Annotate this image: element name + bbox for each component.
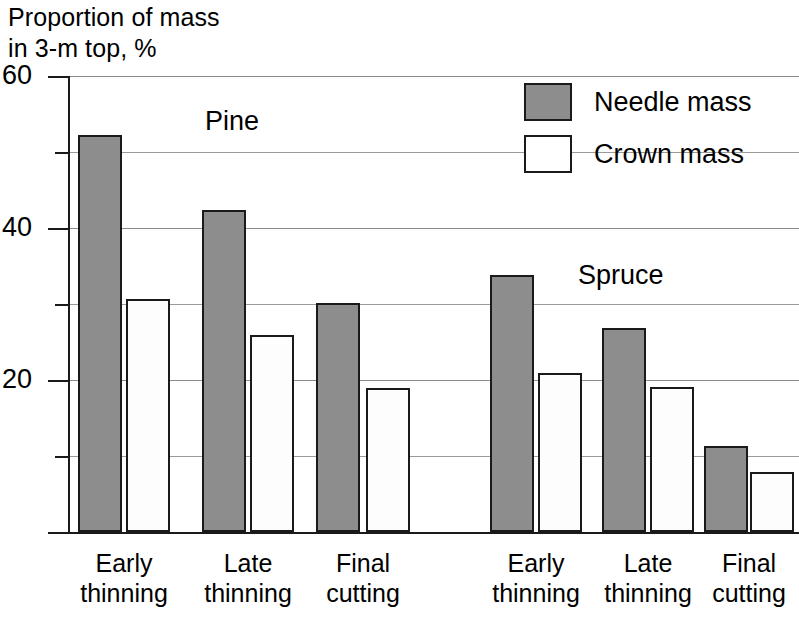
bar-crown-3[interactable] <box>538 373 582 532</box>
gridline-60 <box>68 76 799 77</box>
bar-chart-figure: Proportion of massin 3-m top, % 604020 P… <box>0 0 799 621</box>
x-axis-label-line1: Late <box>624 549 673 577</box>
legend-label-1: Crown mass <box>594 141 744 168</box>
x-axis-label-line2: cutting <box>326 579 400 607</box>
x-axis-label-line1: Final <box>722 549 776 577</box>
y-tick-30 <box>55 304 70 306</box>
gridline-30 <box>68 304 799 305</box>
x-axis-label-5: Finalcutting <box>712 548 786 608</box>
gridline-20 <box>68 380 799 381</box>
y-tick-label-60: 60 <box>2 62 46 89</box>
bar-crown-0[interactable] <box>126 299 170 532</box>
x-axis-label-line2: thinning <box>204 579 292 607</box>
x-axis-label-line2: thinning <box>604 579 692 607</box>
y-axis-tick-labels: 604020 <box>0 0 46 621</box>
y-tick-60 <box>48 76 70 78</box>
bar-needle-0[interactable] <box>78 135 122 532</box>
bar-crown-5[interactable] <box>750 472 794 532</box>
y-tick-label-40: 40 <box>2 214 46 241</box>
y-tick-label-20: 20 <box>2 366 46 393</box>
x-axis-label-line1: Late <box>224 549 273 577</box>
x-axis-label-3: Earlythinning <box>492 548 580 608</box>
x-axis-label-0: Earlythinning <box>80 548 168 608</box>
x-axis-line <box>48 532 799 534</box>
x-axis-label-line1: Final <box>336 549 390 577</box>
x-axis-label-line1: Early <box>96 549 153 577</box>
crown-mass-swatch <box>524 135 572 173</box>
bar-crown-1[interactable] <box>250 335 294 532</box>
bar-needle-4[interactable] <box>602 328 646 532</box>
bar-crown-2[interactable] <box>366 388 410 532</box>
group-annotation-pine: Pine <box>205 108 259 135</box>
legend-item-1[interactable]: Crown mass <box>524 130 752 178</box>
x-axis-label-line2: cutting <box>712 579 786 607</box>
y-tick-40 <box>48 228 70 230</box>
group-annotation-spruce: Spruce <box>578 262 664 289</box>
chart-legend: Needle massCrown mass <box>524 78 752 182</box>
x-axis-label-line2: thinning <box>492 579 580 607</box>
x-axis-label-line1: Early <box>508 549 565 577</box>
x-axis-label-2: Finalcutting <box>326 548 400 608</box>
bar-needle-2[interactable] <box>316 303 360 532</box>
legend-item-0[interactable]: Needle mass <box>524 78 752 126</box>
legend-label-0: Needle mass <box>594 89 752 116</box>
bar-crown-4[interactable] <box>650 387 694 532</box>
x-axis-label-4: Latethinning <box>604 548 692 608</box>
bar-needle-3[interactable] <box>490 275 534 532</box>
y-tick-50 <box>55 152 70 154</box>
needle-mass-swatch <box>524 83 572 121</box>
x-axis-label-1: Latethinning <box>204 548 292 608</box>
y-tick-10 <box>55 456 70 458</box>
gridline-40 <box>68 228 799 229</box>
bar-needle-1[interactable] <box>202 210 246 532</box>
y-tick-20 <box>48 380 70 382</box>
bar-needle-5[interactable] <box>704 446 748 532</box>
x-axis-label-line2: thinning <box>80 579 168 607</box>
